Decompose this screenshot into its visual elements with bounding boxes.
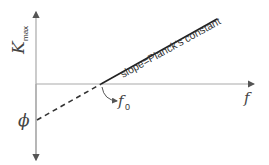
extrapolation-dashed-line <box>37 84 101 120</box>
y-axis-label: K max <box>8 26 30 55</box>
slope-annotation: slope=Planck's constant <box>118 15 222 80</box>
photoelectric-diagram: slope=Planck's constant K max f ϕ f 0 <box>0 0 269 165</box>
y-axis-label-subscript: max <box>21 26 30 41</box>
threshold-pointer-arrow <box>102 87 117 101</box>
y-axis-label-main: K <box>8 40 28 55</box>
threshold-label-subscript: 0 <box>125 102 130 112</box>
x-axis-label: f <box>243 89 252 107</box>
threshold-label: f 0 <box>117 92 130 112</box>
intercept-label: ϕ <box>18 110 30 130</box>
